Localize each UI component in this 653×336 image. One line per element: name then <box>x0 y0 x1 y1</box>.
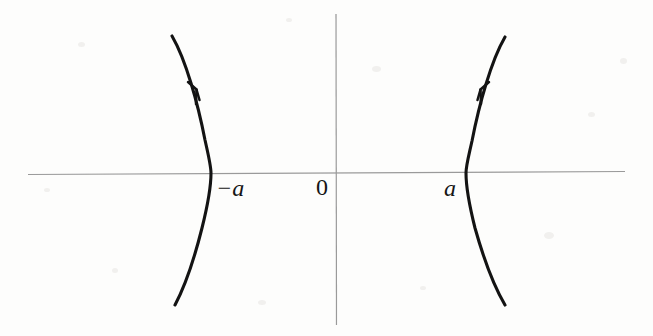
right-branch-curve <box>466 37 505 305</box>
tick-label-negative-a: −a <box>216 176 244 200</box>
left-arrowhead-icon <box>188 82 197 104</box>
hyperbola-figure: −a 0 a <box>0 0 653 336</box>
y-axis <box>336 14 337 325</box>
left-branch-curve <box>172 36 211 305</box>
figure-canvas <box>0 0 653 336</box>
tick-label-a: a <box>444 176 456 200</box>
tick-label-origin: 0 <box>316 175 328 199</box>
